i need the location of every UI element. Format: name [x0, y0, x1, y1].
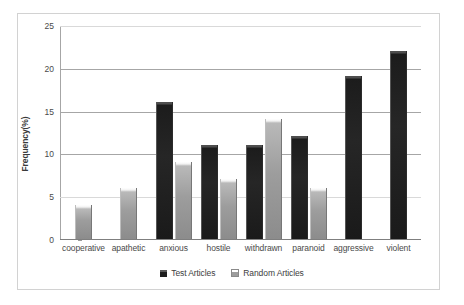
- x-tick-label-withdrawn: withdrawn: [241, 243, 286, 253]
- x-tick-label-paranoid: paranoid: [286, 243, 331, 253]
- y-tick-label-25: 25: [24, 21, 54, 31]
- bar-withdrawn-random: [265, 119, 282, 239]
- bar-series-layer: [61, 26, 421, 239]
- x-tick-label-hostile: hostile: [196, 243, 241, 253]
- bar-apathetic-random: [120, 188, 137, 239]
- y-tick-label-0: 0: [24, 235, 54, 245]
- legend-label: Test Articles: [171, 268, 215, 278]
- y-tick-label-15: 15: [24, 107, 54, 117]
- x-tick-label-anxious: anxious: [151, 243, 196, 253]
- x-tick-label-violent: violent: [376, 243, 421, 253]
- bar-group: [241, 26, 286, 239]
- plot-area: [60, 26, 421, 240]
- legend-swatch-icon: [231, 269, 239, 277]
- bar-aggressive-test: [345, 76, 362, 239]
- bar-hostile-random: [220, 179, 237, 239]
- bar-anxious-test: [156, 102, 173, 239]
- legend-item-test[interactable]: Test Articles: [160, 268, 215, 278]
- y-axis-tick-labels: 0510152025: [22, 26, 54, 240]
- bar-paranoid-random: [310, 188, 327, 239]
- bar-group: [196, 26, 241, 239]
- y-tick-label-20: 20: [24, 64, 54, 74]
- legend-item-random[interactable]: Random Articles: [231, 268, 303, 278]
- y-tick-label-10: 10: [24, 149, 54, 159]
- bar-withdrawn-test: [246, 145, 263, 239]
- bar-group: [376, 26, 421, 239]
- bar-group: [151, 26, 196, 239]
- bar-group: [106, 26, 151, 239]
- chart-figure: Frequency(%) 0510152025 cooperativeapath…: [0, 0, 464, 305]
- bar-cooperative-random: [75, 205, 92, 239]
- bar-violent-test: [390, 51, 407, 239]
- bar-group: [286, 26, 331, 239]
- chart-legend: Test ArticlesRandom Articles: [0, 268, 464, 278]
- legend-swatch-icon: [160, 270, 167, 277]
- bar-anxious-random: [175, 162, 192, 239]
- x-tick-label-cooperative: cooperative: [61, 243, 106, 253]
- y-tick-mark-0: [78, 240, 82, 241]
- x-axis-tick-labels: cooperativeapatheticanxioushostilewithdr…: [61, 243, 421, 253]
- y-tick-label-5: 5: [24, 192, 54, 202]
- legend-label: Random Articles: [243, 268, 303, 278]
- bar-group: [61, 26, 106, 239]
- x-axis-line: [60, 239, 421, 240]
- x-tick-label-aggressive: aggressive: [331, 243, 376, 253]
- bar-paranoid-test: [291, 136, 308, 239]
- bar-group: [331, 26, 376, 239]
- x-tick-label-apathetic: apathetic: [106, 243, 151, 253]
- bar-hostile-test: [201, 145, 218, 239]
